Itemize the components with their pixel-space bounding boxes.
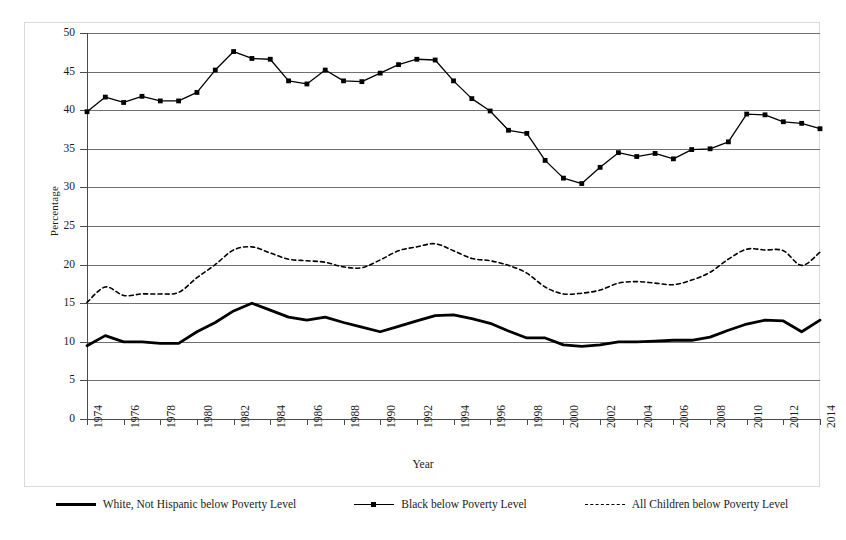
data-point-marker [195, 90, 200, 95]
data-point-marker [341, 78, 346, 83]
data-point-marker [250, 56, 255, 61]
legend-item: All Children below Poverty Level [585, 498, 789, 510]
data-point-marker [378, 71, 383, 76]
data-point-marker [653, 151, 658, 156]
data-point-marker [140, 94, 145, 99]
legend-item: Black below Poverty Level [354, 498, 527, 510]
data-point-marker [85, 109, 90, 114]
data-point-marker [414, 57, 419, 62]
data-point-marker [323, 68, 328, 73]
legend-swatch-icon [585, 499, 625, 509]
data-point-marker [103, 95, 108, 100]
data-point-marker [726, 139, 731, 144]
data-point-marker [799, 121, 804, 126]
data-point-marker [543, 158, 548, 163]
data-point-marker [396, 62, 401, 67]
data-point-marker [634, 154, 639, 159]
series-solid-thick [87, 303, 820, 346]
data-point-marker [469, 96, 474, 101]
legend-label: All Children below Poverty Level [632, 498, 789, 510]
data-point-marker [231, 49, 236, 54]
data-point-marker [818, 126, 823, 131]
series-solid-marker [85, 49, 823, 186]
data-series-layer [0, 0, 846, 540]
legend-swatch-icon [56, 499, 96, 509]
data-point-marker [781, 119, 786, 124]
data-point-marker [524, 131, 529, 136]
legend-item: White, Not Hispanic below Poverty Level [56, 498, 297, 510]
data-point-marker [708, 146, 713, 151]
legend-label: Black below Poverty Level [401, 498, 527, 510]
series-dashed [87, 244, 820, 303]
legend-swatch-icon [354, 499, 394, 509]
legend-label: White, Not Hispanic below Poverty Level [103, 498, 297, 510]
data-point-marker [121, 100, 126, 105]
data-point-marker [763, 112, 768, 117]
data-point-marker [158, 99, 163, 104]
chart-figure: Percentage 05101520253035404550 19741976… [0, 0, 846, 540]
data-point-marker [433, 58, 438, 63]
chart-legend: White, Not Hispanic below Poverty LevelB… [24, 494, 820, 514]
data-point-marker [671, 156, 676, 161]
data-point-marker [744, 112, 749, 117]
data-point-marker [579, 181, 584, 186]
data-point-marker [176, 99, 181, 104]
data-point-marker [561, 176, 566, 181]
data-point-marker [268, 57, 273, 62]
data-point-marker [305, 82, 310, 87]
data-point-marker [359, 79, 364, 84]
data-point-marker [451, 78, 456, 83]
data-point-marker [506, 128, 511, 133]
data-point-marker [488, 109, 493, 114]
data-point-marker [689, 147, 694, 152]
data-point-marker [286, 78, 291, 83]
data-point-marker [598, 165, 603, 170]
plot-wrapper: Percentage 05101520253035404550 19741976… [0, 0, 846, 540]
data-point-marker [616, 150, 621, 155]
data-point-marker [213, 68, 218, 73]
